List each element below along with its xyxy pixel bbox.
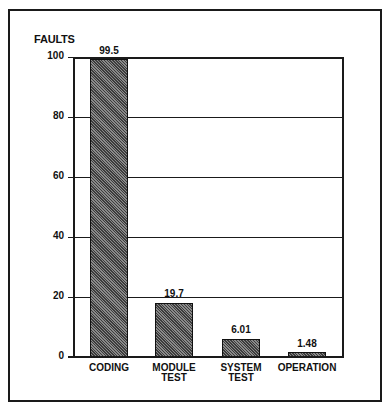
bar-module-test bbox=[155, 303, 193, 357]
y-tick-40: 40 bbox=[30, 230, 64, 241]
y-tick-20: 20 bbox=[30, 290, 64, 301]
gridline-100 bbox=[68, 57, 344, 58]
bar-system-test bbox=[222, 339, 260, 357]
y-axis-label: FAULTS bbox=[34, 33, 75, 45]
x-label-system-test: SYSTEM TEST bbox=[206, 363, 276, 383]
x-label-module-test: MODULE TEST bbox=[139, 363, 209, 383]
x-label-system-test-line2: TEST bbox=[206, 373, 276, 383]
value-label-module-test: 19.7 bbox=[144, 288, 204, 299]
value-label-coding: 99.5 bbox=[79, 45, 139, 56]
value-label-operation: 1.48 bbox=[277, 338, 337, 349]
y-tick-60: 60 bbox=[30, 170, 64, 181]
y-axis bbox=[73, 57, 75, 358]
x-label-operation: OPERATION bbox=[272, 363, 342, 373]
x-label-coding-line1: CODING bbox=[74, 363, 144, 373]
y-tick-0: 0 bbox=[30, 350, 64, 361]
x-axis bbox=[68, 356, 344, 358]
x-label-coding: CODING bbox=[74, 363, 144, 373]
x-label-module-test-line2: TEST bbox=[139, 373, 209, 383]
y-tick-100: 100 bbox=[30, 50, 64, 61]
bar-coding bbox=[90, 59, 128, 357]
x-label-operation-line1: OPERATION bbox=[272, 363, 342, 373]
y-tick-80: 80 bbox=[30, 110, 64, 121]
value-label-system-test: 6.01 bbox=[211, 324, 271, 335]
